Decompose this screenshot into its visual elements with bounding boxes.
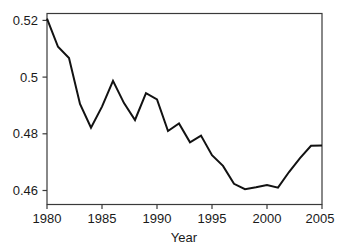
y-tick-label-3: 0.52 — [13, 13, 38, 28]
y-tick-label-1: 0.48 — [13, 126, 38, 141]
y-tick-label-0: 0.46 — [13, 183, 38, 198]
x-tick-label-5: 2005 — [306, 211, 335, 226]
x-tick-label-4: 2000 — [253, 211, 282, 226]
x-tick-label-3: 1995 — [198, 211, 227, 226]
y-tick-label-2: 0.5 — [20, 70, 38, 85]
x-tick-label-1: 1985 — [88, 211, 117, 226]
x-tick-label-0: 1980 — [33, 211, 62, 226]
x-axis-title: Year — [171, 230, 198, 245]
x-tick-label-2: 1990 — [143, 211, 172, 226]
line-chart-figure: 0.46 0.48 0.5 0.52 1980 1985 1990 1995 2… — [0, 0, 345, 251]
